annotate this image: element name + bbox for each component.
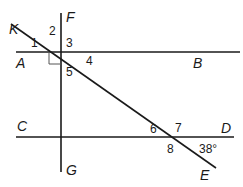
angle-label-2: 2 <box>49 24 56 38</box>
point-label-k: K <box>9 21 19 37</box>
angle-label-5: 5 <box>66 65 73 79</box>
point-label-g: G <box>66 162 77 178</box>
angle-label-8: 8 <box>167 142 174 156</box>
point-label-d: D <box>221 120 231 136</box>
point-label-c: C <box>17 118 28 134</box>
point-label-e: E <box>200 167 210 183</box>
angle-label-38deg: 38° <box>199 142 217 156</box>
point-label-a: A <box>15 55 25 71</box>
geometry-figure: KFABCDGE 1234567838° <box>0 0 243 187</box>
point-labels: KFABCDGE <box>9 9 231 183</box>
angle-label-4: 4 <box>86 54 93 68</box>
point-label-b: B <box>193 55 202 71</box>
angle-label-6: 6 <box>150 122 157 136</box>
angle-label-7: 7 <box>175 121 182 135</box>
line-ke <box>11 24 216 168</box>
angle-label-1: 1 <box>31 36 38 50</box>
point-label-f: F <box>66 9 76 25</box>
angle-label-3: 3 <box>66 36 73 50</box>
